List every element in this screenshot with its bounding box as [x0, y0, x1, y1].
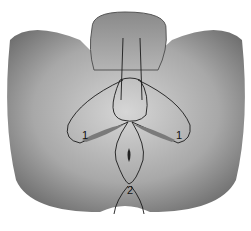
- label-1-left: 1: [82, 129, 88, 141]
- label-2: 2: [127, 184, 133, 196]
- label-1-right: 1: [176, 129, 182, 141]
- upper-structure: [90, 12, 166, 70]
- anatomical-figure: 1 1 2: [0, 0, 251, 231]
